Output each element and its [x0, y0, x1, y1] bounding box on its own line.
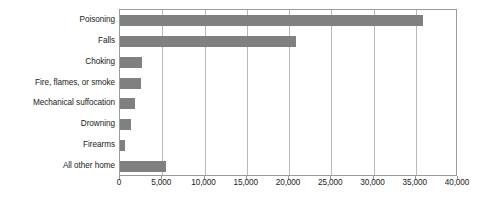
- x-axis-tick-mark: [330, 176, 331, 179]
- x-axis-tick-label: 0: [117, 178, 122, 187]
- x-axis-tick-mark: [161, 176, 162, 179]
- y-axis-label: Drowning: [0, 113, 115, 134]
- bar-row: [120, 94, 458, 115]
- x-axis-tick-label: 15,000: [233, 178, 258, 187]
- bar-row: [120, 135, 458, 156]
- bar-row: [120, 156, 458, 177]
- bar: [120, 119, 131, 130]
- x-axis-tick-label: 20,000: [276, 178, 301, 187]
- x-axis-tick-mark: [288, 176, 289, 179]
- x-axis-tick-label: 30,000: [360, 178, 385, 187]
- bar: [120, 78, 141, 89]
- bar: [120, 57, 142, 68]
- x-axis-tick-mark: [204, 176, 205, 179]
- bar-row: [120, 52, 458, 73]
- x-axis-tick-label: 5,000: [151, 178, 171, 187]
- y-axis-label: Mechanical suffocation: [0, 93, 115, 114]
- x-axis-tick-mark: [373, 176, 374, 179]
- x-axis-tick-mark: [457, 176, 458, 179]
- bars-group: [120, 10, 456, 175]
- y-axis-label: Firearms: [0, 134, 115, 155]
- x-axis-tick-mark: [415, 176, 416, 179]
- bar: [120, 98, 135, 109]
- y-axis-category-labels: PoisoningFallsChokingFire, flames, or sm…: [0, 9, 115, 176]
- bar-row: [120, 10, 458, 31]
- x-axis-tick-label: 25,000: [318, 178, 343, 187]
- x-axis-tick-mark: [246, 176, 247, 179]
- bar-row: [120, 31, 458, 52]
- y-axis-label: Fire, flames, or smoke: [0, 72, 115, 93]
- bar: [120, 140, 125, 151]
- y-axis-label: Poisoning: [0, 9, 115, 30]
- bar: [120, 15, 423, 26]
- bar: [120, 161, 166, 172]
- x-axis-tick-label: 35,000: [402, 178, 427, 187]
- x-axis-tick-label: 40,000: [445, 178, 470, 187]
- y-axis-label: Falls: [0, 30, 115, 51]
- y-axis-label: All other home: [0, 155, 115, 176]
- bar-row: [120, 73, 458, 94]
- plot-area: [119, 9, 457, 176]
- x-axis-tick-labels: 05,00010,00015,00020,00025,00030,00035,0…: [0, 178, 485, 194]
- x-axis-tick-mark: [119, 176, 120, 179]
- bar-row: [120, 114, 458, 135]
- x-axis-tick-label: 10,000: [191, 178, 216, 187]
- bar-chart-figure: PoisoningFallsChokingFire, flames, or sm…: [0, 0, 485, 205]
- bar: [120, 36, 296, 47]
- y-axis-label: Choking: [0, 51, 115, 72]
